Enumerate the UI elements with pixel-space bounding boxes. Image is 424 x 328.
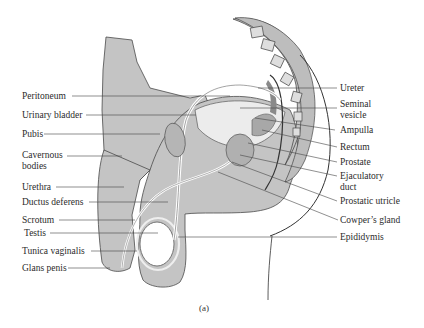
label-ductus-deferens: Ductus deferens: [22, 197, 83, 208]
label-scrotum: Scrotum: [22, 215, 54, 226]
label-seminal-vesicle-line2: vesicle: [340, 110, 366, 121]
label-prostate: Prostate: [340, 157, 371, 168]
anatomy-figure: Peritoneum Urinary bladder Pubis Caverno…: [0, 0, 424, 328]
label-ureter: Ureter: [340, 83, 364, 94]
label-ejaculatory-duct-line2: duct: [340, 182, 356, 193]
label-epididymis: Epididymis: [340, 232, 384, 243]
label-urinary-bladder: Urinary bladder: [22, 110, 82, 121]
label-pubis: Pubis: [22, 129, 43, 140]
label-peritoneum: Peritoneum: [22, 91, 66, 102]
label-seminal-vesicle: Seminal: [340, 99, 371, 110]
label-urethra: Urethra: [22, 182, 51, 193]
label-cavernous-bodies-line2: bodies: [22, 161, 47, 172]
buttock-line: [268, 236, 272, 300]
label-testis: Testis: [24, 228, 46, 239]
label-tunica-vaginalis: Tunica vaginalis: [22, 246, 85, 257]
label-ejaculatory-duct: Ejaculatory: [340, 171, 384, 182]
label-glans-penis: Glans penis: [22, 263, 67, 274]
label-rectum: Rectum: [340, 142, 370, 153]
prostate-shape: [226, 134, 254, 166]
label-ampulla: Ampulla: [340, 125, 373, 136]
label-cowpers-gland: Cowper’s gland: [340, 215, 400, 226]
label-cavernous-bodies: Cavernous: [22, 150, 63, 161]
label-prostatic-utricle: Prostatic utricle: [340, 196, 400, 207]
figure-caption: (a): [199, 303, 209, 313]
testis-shape: [140, 222, 174, 266]
